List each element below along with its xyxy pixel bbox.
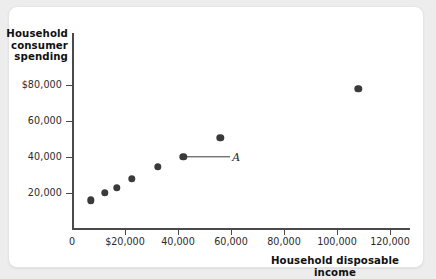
y-axis-tick-label: 60,000 <box>4 115 62 126</box>
annotation-label-a: A <box>232 151 240 164</box>
x-axis-tick <box>231 229 232 235</box>
data-point <box>113 184 120 191</box>
x-axis-tick <box>284 229 285 235</box>
y-axis-tick-label: $80,000 <box>4 79 62 90</box>
data-point <box>180 153 187 160</box>
data-point <box>154 163 161 170</box>
data-point <box>87 196 94 203</box>
y-axis-tick <box>66 157 72 158</box>
x-axis-tick <box>390 229 391 235</box>
figure-root: Household consumer spending Household di… <box>0 0 436 279</box>
annotation-leader-line <box>183 156 230 157</box>
data-point <box>128 175 135 182</box>
x-axis-tick <box>337 229 338 235</box>
data-point <box>354 85 361 92</box>
x-axis-tick-label: 120,000 <box>355 236 425 247</box>
data-point <box>101 189 108 196</box>
x-axis-line <box>72 228 410 230</box>
x-axis-title: Household disposable income <box>250 255 420 278</box>
y-axis-tick-label: 40,000 <box>4 151 62 162</box>
x-axis-tick <box>178 229 179 235</box>
y-axis-line <box>72 33 74 229</box>
x-axis-tick <box>125 229 126 235</box>
y-axis-tick <box>66 85 72 86</box>
data-point <box>217 134 224 141</box>
y-axis-tick <box>66 121 72 122</box>
y-axis-title: Household consumer spending <box>6 28 68 63</box>
y-axis-tick <box>66 193 72 194</box>
y-axis-tick-label: 20,000 <box>4 187 62 198</box>
scatter-plot: Household consumer spending Household di… <box>0 0 436 279</box>
